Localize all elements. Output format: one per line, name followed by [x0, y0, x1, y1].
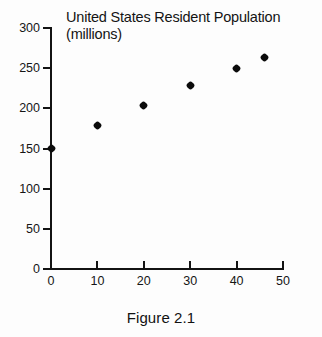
x-axis-tick-label: 40 [220, 275, 254, 288]
x-axis-tick [236, 261, 238, 270]
data-point [92, 120, 102, 130]
y-axis-tick-label: 0 [6, 263, 40, 276]
data-point [139, 100, 149, 110]
y-axis-tick-label: 250 [6, 62, 40, 75]
x-axis-tick [96, 261, 98, 270]
x-axis-tick [282, 261, 284, 270]
y-axis-tick-label: 150 [6, 143, 40, 156]
y-axis-tick [43, 228, 51, 230]
y-axis-tick [43, 107, 51, 109]
x-axis-tick-label: 30 [173, 275, 207, 288]
y-axis-tick [43, 67, 51, 69]
y-axis-tick-label: 300 [6, 22, 40, 35]
x-axis-tick-label: 20 [127, 275, 161, 288]
x-axis-tick [143, 261, 145, 270]
y-axis-tick-label: 50 [6, 223, 40, 236]
figure-caption: Figure 2.1 [0, 309, 322, 327]
x-axis-tick-label: 0 [34, 275, 68, 288]
scatter-plot: United States Resident Population (milli… [0, 0, 322, 300]
chart-title: United States Resident Population (milli… [66, 9, 314, 43]
x-axis-tick-label: 10 [80, 275, 114, 288]
figure: United States Resident Population (milli… [0, 0, 322, 337]
y-axis-tick-label: 100 [6, 183, 40, 196]
data-point [185, 81, 195, 91]
x-axis-tick [50, 261, 52, 270]
x-axis-line [50, 268, 283, 270]
y-axis-tick-label: 200 [6, 102, 40, 115]
x-axis-tick-label: 50 [266, 275, 300, 288]
x-axis-tick [189, 261, 191, 270]
data-point [46, 144, 56, 154]
y-axis-tick [43, 188, 51, 190]
y-axis-tick [43, 27, 51, 29]
data-point [259, 53, 269, 63]
data-point [232, 64, 242, 74]
